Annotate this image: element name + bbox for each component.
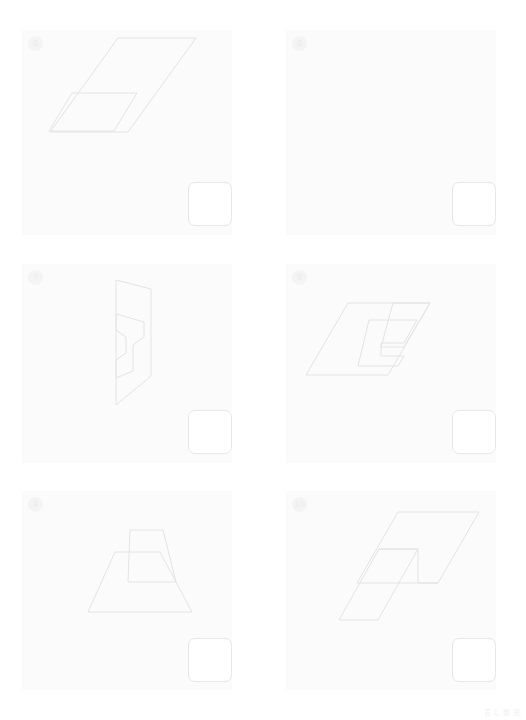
- lower-parallelogram: [339, 549, 418, 620]
- answer-box-8[interactable]: [452, 410, 496, 454]
- panel-number-badge: 10: [292, 497, 307, 512]
- panel-number-badge: 5: [28, 36, 43, 51]
- inner-shape-b: [381, 303, 430, 347]
- outer-quadrilateral: [116, 280, 151, 405]
- answer-box-5[interactable]: [188, 182, 232, 226]
- overlap-path: [379, 549, 438, 583]
- panel-number-badge: 9: [28, 497, 43, 512]
- panel-number-badge: 6: [292, 36, 307, 51]
- large-parallelogram: [50, 38, 196, 132]
- worksheet-page: 5678910: [0, 0, 526, 720]
- inner-shape-a: [358, 320, 417, 366]
- upper-parallelogram: [357, 512, 479, 583]
- inner-arrow-shape: [116, 314, 144, 378]
- answer-box-6[interactable]: [452, 182, 496, 226]
- answer-box-7[interactable]: [188, 410, 232, 454]
- large-trapezoid: [88, 552, 192, 612]
- small-trapezoid: [128, 530, 176, 582]
- answer-box-10[interactable]: [452, 638, 496, 682]
- panel-number-badge: 8: [292, 270, 307, 285]
- panel-number-badge: 7: [28, 270, 43, 285]
- small-parallelogram: [49, 93, 137, 131]
- answer-box-9[interactable]: [188, 638, 232, 682]
- footer-note: 答え 数 形: [484, 707, 522, 717]
- outer-parallelogram: [306, 303, 430, 375]
